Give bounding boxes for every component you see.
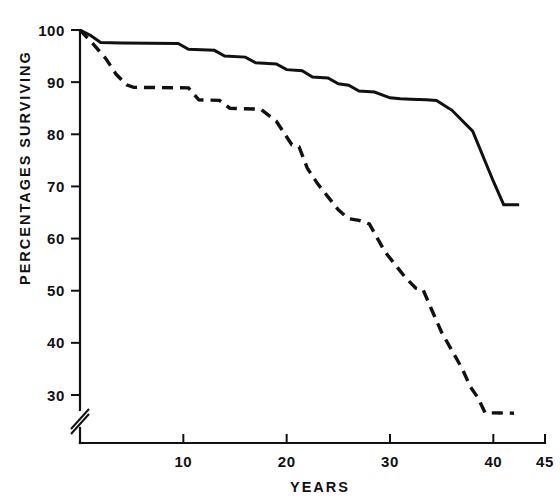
y-tick-label-40: 40 — [47, 334, 65, 351]
y-tick-label-70: 70 — [47, 178, 65, 195]
y-tick-label-50: 50 — [47, 282, 65, 299]
y-tick-label-60: 60 — [47, 230, 65, 247]
series-layer — [80, 30, 519, 413]
axis-break-mark-upper — [71, 409, 89, 429]
figure-container: PERCENTAGES SURVIVING YEARS 304050607080… — [0, 0, 560, 502]
x-axis-title: YEARS — [290, 479, 350, 495]
y-tick-label-90: 90 — [47, 74, 65, 91]
x-tick-label-40: 40 — [484, 453, 502, 470]
x-tick-label-30: 30 — [381, 453, 399, 470]
series-solid-curve — [80, 30, 519, 205]
x-tick-label-10: 10 — [174, 453, 192, 470]
survival-chart: PERCENTAGES SURVIVING YEARS 304050607080… — [0, 0, 560, 502]
tick-layer: 304050607080901001020304045 — [38, 22, 554, 471]
y-tick-label-100: 100 — [38, 22, 65, 39]
series-dashed-curve — [80, 30, 514, 413]
y-tick-label-80: 80 — [47, 126, 65, 143]
axis-layer — [71, 30, 545, 443]
x-tick-label-45: 45 — [536, 453, 554, 470]
y-tick-label-30: 30 — [47, 387, 65, 404]
y-axis-title: PERCENTAGES SURVIVING — [17, 50, 33, 285]
x-tick-label-20: 20 — [278, 453, 296, 470]
